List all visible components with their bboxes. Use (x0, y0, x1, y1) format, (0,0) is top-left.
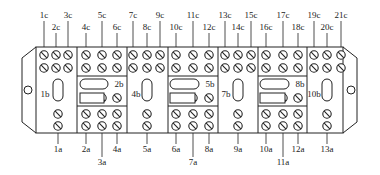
label-6c: 6c (113, 22, 122, 32)
label-2c: 2c (52, 22, 61, 32)
screw-icon (172, 122, 180, 130)
link-1b (53, 79, 63, 101)
screw-icon (143, 122, 151, 130)
screw-icon (98, 51, 106, 59)
screw-icon (172, 51, 180, 59)
screw-icon (64, 51, 72, 59)
label-12a: 12a (292, 144, 305, 154)
screw-icon (310, 64, 318, 72)
screw-icon (82, 51, 90, 59)
label-11c: 11c (187, 10, 200, 20)
label-5b: 5b (206, 79, 216, 89)
screw-icon (113, 64, 121, 72)
screw-icon (279, 110, 287, 118)
label-3c: 3c (64, 10, 73, 20)
screw-icon (54, 110, 62, 118)
screw-icon (323, 64, 331, 72)
screw-icon (143, 110, 151, 118)
screw-icon (247, 51, 255, 59)
screw-icon (52, 51, 60, 59)
screw-icon (129, 64, 137, 72)
screw-icon (337, 51, 345, 59)
mounting-hole-right (347, 86, 355, 94)
screw-icon (113, 110, 121, 118)
screw-icon (294, 51, 302, 59)
screw-icon (262, 110, 270, 118)
label-7a: 7a (189, 157, 198, 167)
label-1b: 1b (41, 89, 51, 99)
label-13c: 13c (219, 10, 232, 20)
label-7c: 7c (129, 10, 138, 20)
screw-icon (52, 64, 60, 72)
link-5b (170, 79, 199, 89)
screw-icon (310, 51, 318, 59)
b-links (53, 79, 332, 103)
box-3b (80, 93, 104, 103)
screw-icon (172, 110, 180, 118)
screw-icon (129, 51, 137, 59)
screw-icon (143, 51, 151, 59)
screw-icon (172, 64, 180, 72)
label-20c: 20c (321, 22, 334, 32)
screw-icon (262, 64, 270, 72)
link-8b (260, 79, 289, 89)
label-1a: 1a (54, 144, 63, 154)
screw-icon (40, 64, 48, 72)
diagram-canvas: 1c2c3c4c5c6c7c8c9c10c11c12c13c14c15c16c1… (0, 0, 380, 175)
screw-icon (323, 110, 331, 118)
screw-icon (113, 122, 121, 130)
screw-icon (156, 64, 164, 72)
screw-icon (189, 122, 197, 130)
link-2b (80, 79, 108, 89)
screw-icon (279, 122, 287, 130)
link-10b (322, 79, 332, 101)
box-6b (170, 93, 195, 103)
screw-icon (234, 110, 242, 118)
screw-icon (205, 51, 213, 59)
screw-icon (323, 122, 331, 130)
screw-icon (323, 51, 331, 59)
screw-icon (189, 51, 197, 59)
label-8c: 8c (143, 22, 152, 32)
screw-icon (262, 122, 270, 130)
label-18c: 18c (292, 22, 305, 32)
screw-icon (156, 51, 164, 59)
screw-icon (82, 122, 90, 130)
label-3a: 3a (98, 157, 107, 167)
label-2a: 2a (82, 144, 91, 154)
screw-icon (113, 94, 121, 102)
screw-icon (64, 64, 72, 72)
label-10c: 10c (170, 22, 183, 32)
label-9c: 9c (156, 10, 165, 20)
screw-icon (279, 51, 287, 59)
screw-icon (279, 64, 287, 72)
screw-icon (98, 64, 106, 72)
screw-icon (40, 51, 48, 59)
screw-icon (143, 64, 151, 72)
screw-icon (234, 122, 242, 130)
screw-icon (234, 64, 242, 72)
screw-icon (337, 64, 345, 72)
screw-icon (98, 122, 106, 130)
label-7b: 7b (222, 89, 232, 99)
screw-icon (294, 94, 302, 102)
screw-icon (247, 64, 255, 72)
screw-icon (82, 64, 90, 72)
label-4c: 4c (82, 22, 91, 32)
label-2b: 2b (115, 79, 125, 89)
screw-terminals (40, 51, 345, 130)
screw-icon (294, 122, 302, 130)
screw-icon (82, 110, 90, 118)
screw-icon (205, 64, 213, 72)
screw-icon (221, 64, 229, 72)
label-21c: 21c (335, 10, 348, 20)
label-5a: 5a (143, 144, 152, 154)
label-13a: 13a (321, 144, 334, 154)
label-12c: 12c (203, 22, 216, 32)
screw-icon (221, 51, 229, 59)
label-4b: 4b (132, 89, 142, 99)
screw-icon (189, 64, 197, 72)
label-10b: 10b (307, 89, 321, 99)
label-5c: 5c (98, 10, 107, 20)
terminal-block-diagram: 1c2c3c4c5c6c7c8c9c10c11c12c13c14c15c16c1… (0, 0, 380, 175)
